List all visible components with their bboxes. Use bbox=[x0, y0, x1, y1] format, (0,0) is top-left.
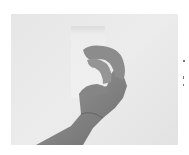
photo bbox=[11, 14, 178, 145]
hand-illustration bbox=[11, 14, 178, 145]
cropped-caption-marks bbox=[183, 60, 187, 90]
